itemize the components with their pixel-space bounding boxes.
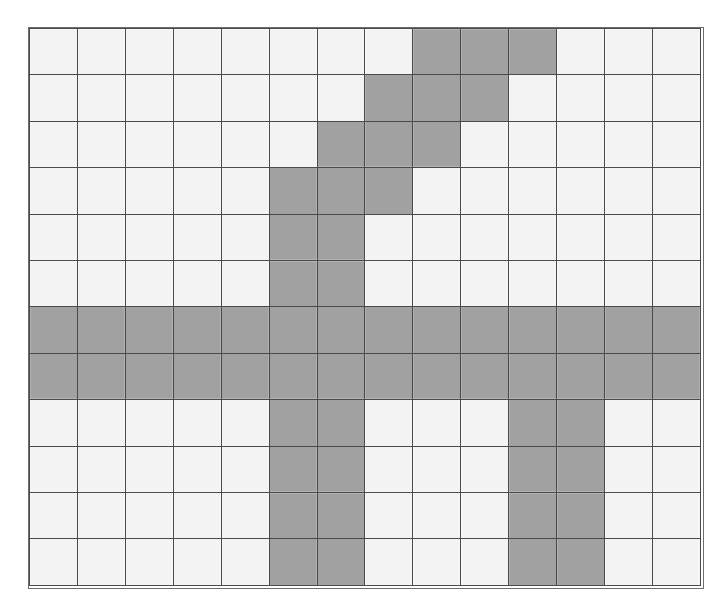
grid-cell-empty[interactable] — [461, 121, 509, 167]
grid-cell-filled[interactable] — [509, 29, 557, 75]
grid-cell-empty[interactable] — [30, 121, 78, 167]
grid-cell-empty[interactable] — [365, 539, 413, 586]
grid-cell-empty[interactable] — [365, 29, 413, 75]
grid-cell-empty[interactable] — [605, 75, 653, 121]
grid-cell-empty[interactable] — [221, 539, 269, 586]
grid-cell-filled[interactable] — [652, 353, 700, 399]
grid-cell-empty[interactable] — [173, 29, 221, 75]
grid-cell-empty[interactable] — [365, 400, 413, 446]
grid-cell-filled[interactable] — [365, 121, 413, 167]
grid-cell-empty[interactable] — [269, 75, 317, 121]
grid-cell-filled[interactable] — [365, 168, 413, 214]
grid-cell-filled[interactable] — [269, 493, 317, 539]
grid-cell-empty[interactable] — [365, 261, 413, 307]
grid-cell-empty[interactable] — [30, 539, 78, 586]
grid-cell-filled[interactable] — [269, 261, 317, 307]
grid-cell-empty[interactable] — [269, 29, 317, 75]
grid-cell-empty[interactable] — [30, 261, 78, 307]
grid-cell-filled[interactable] — [509, 493, 557, 539]
grid-cell-filled[interactable] — [557, 539, 605, 586]
grid-cell-filled[interactable] — [269, 214, 317, 260]
grid-cell-empty[interactable] — [652, 29, 700, 75]
grid-cell-empty[interactable] — [557, 29, 605, 75]
grid-cell-filled[interactable] — [509, 446, 557, 492]
grid-cell-empty[interactable] — [413, 493, 461, 539]
grid-cell-empty[interactable] — [605, 446, 653, 492]
grid-cell-empty[interactable] — [125, 75, 173, 121]
grid-cell-filled[interactable] — [30, 353, 78, 399]
grid-cell-filled[interactable] — [269, 168, 317, 214]
grid-cell-filled[interactable] — [413, 29, 461, 75]
grid-cell-filled[interactable] — [317, 539, 365, 586]
grid-cell-empty[interactable] — [77, 493, 125, 539]
grid-cell-empty[interactable] — [221, 400, 269, 446]
grid-cell-empty[interactable] — [30, 75, 78, 121]
grid-cell-filled[interactable] — [461, 307, 509, 353]
grid-cell-empty[interactable] — [365, 214, 413, 260]
grid-cell-empty[interactable] — [557, 214, 605, 260]
grid-cell-empty[interactable] — [557, 168, 605, 214]
grid-cell-filled[interactable] — [125, 353, 173, 399]
grid-cell-empty[interactable] — [30, 446, 78, 492]
grid-cell-empty[interactable] — [125, 493, 173, 539]
grid-cell-filled[interactable] — [269, 539, 317, 586]
grid-cell-filled[interactable] — [461, 75, 509, 121]
grid-cell-empty[interactable] — [125, 446, 173, 492]
grid-cell-empty[interactable] — [605, 493, 653, 539]
grid-cell-empty[interactable] — [413, 446, 461, 492]
grid-cell-empty[interactable] — [125, 261, 173, 307]
grid-cell-filled[interactable] — [557, 353, 605, 399]
grid-cell-filled[interactable] — [173, 307, 221, 353]
grid-cell-empty[interactable] — [509, 121, 557, 167]
grid-cell-filled[interactable] — [509, 353, 557, 399]
grid-cell-empty[interactable] — [77, 446, 125, 492]
grid-cell-empty[interactable] — [461, 493, 509, 539]
grid-cell-empty[interactable] — [557, 75, 605, 121]
grid-cell-empty[interactable] — [221, 446, 269, 492]
grid-cell-empty[interactable] — [461, 400, 509, 446]
grid-cell-empty[interactable] — [221, 168, 269, 214]
grid-cell-filled[interactable] — [509, 307, 557, 353]
grid-cell-empty[interactable] — [317, 29, 365, 75]
grid-cell-empty[interactable] — [413, 539, 461, 586]
grid-cell-filled[interactable] — [557, 446, 605, 492]
grid-cell-empty[interactable] — [461, 539, 509, 586]
grid-cell-filled[interactable] — [317, 353, 365, 399]
grid-cell-filled[interactable] — [125, 307, 173, 353]
grid-cell-filled[interactable] — [173, 353, 221, 399]
grid-cell-empty[interactable] — [605, 539, 653, 586]
grid-cell-filled[interactable] — [557, 400, 605, 446]
grid-cell-filled[interactable] — [221, 353, 269, 399]
grid-cell-empty[interactable] — [173, 214, 221, 260]
grid-cell-filled[interactable] — [317, 307, 365, 353]
grid-cell-filled[interactable] — [413, 353, 461, 399]
grid-cell-empty[interactable] — [317, 75, 365, 121]
grid-cell-empty[interactable] — [652, 121, 700, 167]
grid-cell-empty[interactable] — [77, 75, 125, 121]
grid-cell-empty[interactable] — [77, 539, 125, 586]
grid-cell-empty[interactable] — [77, 29, 125, 75]
grid-cell-filled[interactable] — [557, 493, 605, 539]
grid-cell-filled[interactable] — [317, 493, 365, 539]
grid-cell-empty[interactable] — [652, 214, 700, 260]
grid-cell-empty[interactable] — [413, 400, 461, 446]
grid-cell-empty[interactable] — [125, 29, 173, 75]
grid-cell-empty[interactable] — [221, 29, 269, 75]
grid-cell-filled[interactable] — [317, 446, 365, 492]
grid-cell-empty[interactable] — [269, 121, 317, 167]
grid-cell-empty[interactable] — [221, 121, 269, 167]
grid-cell-filled[interactable] — [557, 307, 605, 353]
grid-cell-filled[interactable] — [317, 400, 365, 446]
grid-cell-empty[interactable] — [30, 168, 78, 214]
grid-cell-empty[interactable] — [557, 261, 605, 307]
grid-cell-empty[interactable] — [221, 261, 269, 307]
grid-cell-empty[interactable] — [173, 261, 221, 307]
grid-cell-empty[interactable] — [221, 214, 269, 260]
grid-cell-filled[interactable] — [317, 168, 365, 214]
grid-cell-filled[interactable] — [269, 400, 317, 446]
grid-cell-empty[interactable] — [173, 168, 221, 214]
grid-cell-filled[interactable] — [652, 307, 700, 353]
grid-cell-empty[interactable] — [30, 214, 78, 260]
grid-cell-empty[interactable] — [173, 493, 221, 539]
grid-cell-filled[interactable] — [317, 214, 365, 260]
